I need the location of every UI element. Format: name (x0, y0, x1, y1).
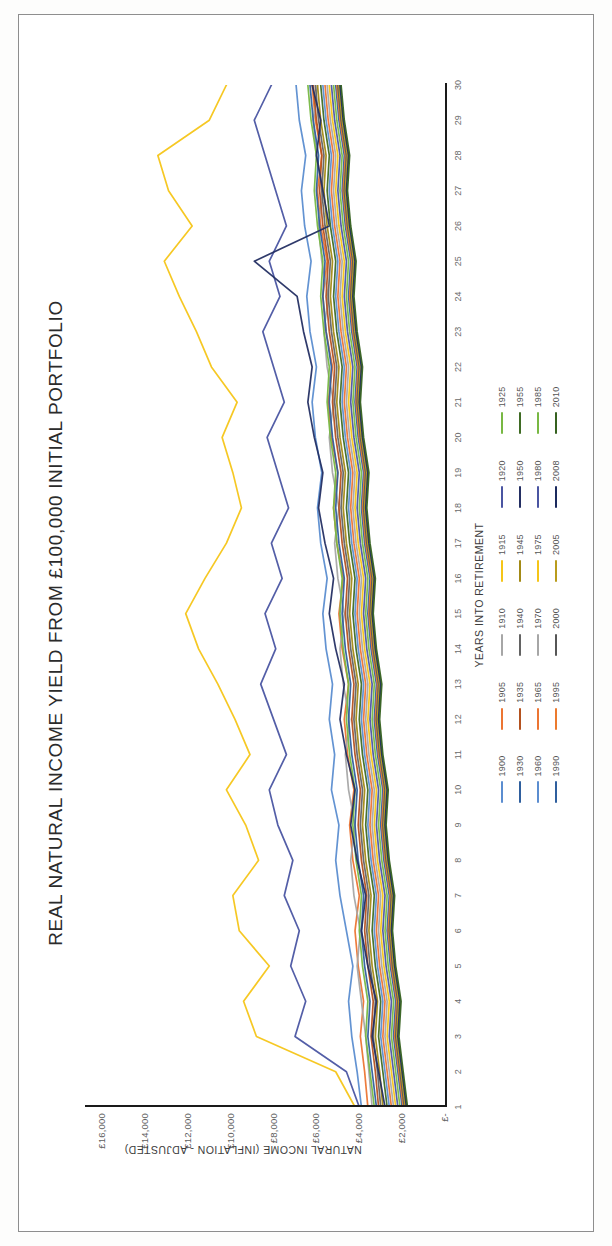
x-tick-label: 30 (453, 72, 463, 98)
y-tick-label: £- (439, 1113, 450, 1185)
x-tick-label: 28 (453, 142, 463, 168)
legend-item[interactable]: 1955 (515, 387, 525, 435)
x-tick-label: 5 (453, 953, 463, 979)
legend-item[interactable]: 1965 (533, 682, 543, 730)
legend-label: 1935 (515, 682, 525, 703)
legend-row: 193019351940194519501955 (511, 83, 529, 1107)
legend-row: 196019651970197519801985 (529, 83, 547, 1107)
legend-swatch (537, 486, 540, 508)
legend-item[interactable]: 1975 (533, 534, 543, 582)
legend-swatch (519, 708, 522, 730)
legend-item[interactable]: 1970 (533, 608, 543, 656)
scanned-page: REAL NATURAL INCOME YIELD FROM £100,000 … (0, 0, 612, 1246)
legend-label: 2005 (551, 534, 561, 555)
x-tick-label: 10 (453, 777, 463, 803)
legend-label: 2000 (551, 608, 561, 629)
legend-label: 1910 (497, 608, 507, 629)
series-lines (85, 85, 445, 1107)
x-tick-label: 18 (453, 495, 463, 521)
legend-swatch (501, 560, 504, 582)
legend-swatch (519, 560, 522, 582)
legend-item[interactable]: 2000 (551, 608, 561, 656)
x-axis-title: YEARS INTO RETIREMENT (473, 83, 485, 1107)
x-tick-label: 14 (453, 636, 463, 662)
legend-label: 1975 (533, 534, 543, 555)
legend-item[interactable]: 1915 (497, 534, 507, 582)
legend-label: 1925 (497, 387, 507, 408)
legend-item[interactable]: 2008 (551, 460, 561, 508)
legend-label: 1920 (497, 460, 507, 481)
x-tick-label: 4 (453, 988, 463, 1014)
legend-item[interactable]: 1985 (533, 387, 543, 435)
x-tick-label: 15 (453, 601, 463, 627)
legend-item[interactable]: 1910 (497, 608, 507, 656)
x-tick-label: 29 (453, 107, 463, 133)
x-tick-label: 27 (453, 178, 463, 204)
legend-swatch (501, 781, 504, 803)
legend-swatch (537, 634, 540, 656)
legend-item[interactable]: 1900 (497, 756, 507, 804)
legend-row: 190019051910191519201925 (493, 83, 511, 1107)
rotated-chart-wrapper: REAL NATURAL INCOME YIELD FROM £100,000 … (34, 33, 580, 1213)
legend-swatch (519, 781, 522, 803)
x-tick-label: 23 (453, 319, 463, 345)
legend-label: 1980 (533, 460, 543, 481)
legend-label: 1905 (497, 682, 507, 703)
legend-item[interactable]: 1990 (551, 756, 561, 804)
legend-item[interactable]: 1960 (533, 756, 543, 804)
legend-swatch (555, 486, 558, 508)
legend-label: 1900 (497, 756, 507, 777)
legend-label: 1960 (533, 756, 543, 777)
legend-item[interactable]: 1940 (515, 608, 525, 656)
legend-item[interactable]: 1905 (497, 682, 507, 730)
legend-item[interactable]: 1945 (515, 534, 525, 582)
legend-item[interactable]: 1920 (497, 460, 507, 508)
legend-item[interactable]: 1925 (497, 387, 507, 435)
x-axis-line (445, 83, 447, 1107)
x-tick-label: 21 (453, 389, 463, 415)
legend-item[interactable]: 2010 (551, 387, 561, 435)
x-tick-label: 6 (453, 918, 463, 944)
legend-item[interactable]: 1995 (551, 682, 561, 730)
legend-label: 1970 (533, 608, 543, 629)
legend-swatch (501, 486, 504, 508)
legend-item[interactable]: 1935 (515, 682, 525, 730)
legend-row: 199019952000200520082010 (547, 83, 565, 1107)
x-tick-label: 16 (453, 565, 463, 591)
legend-label: 1940 (515, 608, 525, 629)
legend-label: 1985 (533, 387, 543, 408)
x-tick-label: 24 (453, 283, 463, 309)
x-tick-label: 8 (453, 847, 463, 873)
x-tick-label: 1 (453, 1094, 463, 1120)
legend-swatch (501, 708, 504, 730)
legend-swatch (555, 412, 558, 434)
x-tick-label: 11 (453, 742, 463, 768)
y-axis-title: NATURAL INCOME (INFLATION - ADJUSTED) (78, 1144, 408, 1156)
legend-swatch (537, 781, 540, 803)
legend-label: 2008 (551, 460, 561, 481)
legend-swatch (519, 412, 522, 434)
legend-swatch (519, 486, 522, 508)
legend-item[interactable]: 1980 (533, 460, 543, 508)
legend-swatch (537, 412, 540, 434)
x-tick-label: 26 (453, 213, 463, 239)
legend-label: 2010 (551, 387, 561, 408)
legend-swatch (537, 708, 540, 730)
x-tick-label: 20 (453, 424, 463, 450)
legend-label: 1990 (551, 756, 561, 777)
x-tick-label: 19 (453, 460, 463, 486)
x-tick-label: 7 (453, 883, 463, 909)
legend-item[interactable]: 2005 (551, 534, 561, 582)
legend-label: 1930 (515, 756, 525, 777)
x-tick-label: 12 (453, 706, 463, 732)
y-axis-line (85, 1105, 447, 1107)
legend-item[interactable]: 1950 (515, 460, 525, 508)
x-tick-label: 25 (453, 248, 463, 274)
legend-item[interactable]: 1930 (515, 756, 525, 804)
chart-title: REAL NATURAL INCOME YIELD FROM £100,000 … (45, 47, 67, 1199)
legend-label: 1915 (497, 534, 507, 555)
x-tick-label: 13 (453, 671, 463, 697)
legend-label: 1950 (515, 460, 525, 481)
legend-swatch (537, 560, 540, 582)
x-tick-label: 22 (453, 354, 463, 380)
